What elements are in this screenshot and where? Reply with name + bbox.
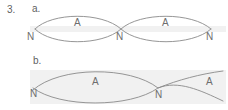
standing-wave-figure: 3. a. N N N A A b. N N A A (0, 0, 228, 110)
part-b-node-2-label: N (155, 90, 162, 100)
part-a-node-3-label: N (206, 32, 213, 42)
part-a-node-1-label: N (27, 32, 34, 42)
part-b-label: b. (33, 56, 41, 66)
part-a-label: a. (32, 4, 40, 14)
part-a-antinode-1-label: A (74, 18, 81, 28)
part-a-node-2-label: N (116, 32, 123, 42)
part-a-antinode-2-label: A (162, 18, 169, 28)
part-b-node-1-label: N (30, 89, 37, 99)
part-a-upper-envelope (35, 16, 211, 29)
part-b-antinode-2-label: A (206, 77, 213, 87)
question-number: 3. (7, 5, 15, 15)
part-b-upper-envelope (33, 71, 223, 90)
part-b-antinode-1-label: A (92, 77, 99, 87)
part-b-lower-envelope (33, 85, 223, 103)
